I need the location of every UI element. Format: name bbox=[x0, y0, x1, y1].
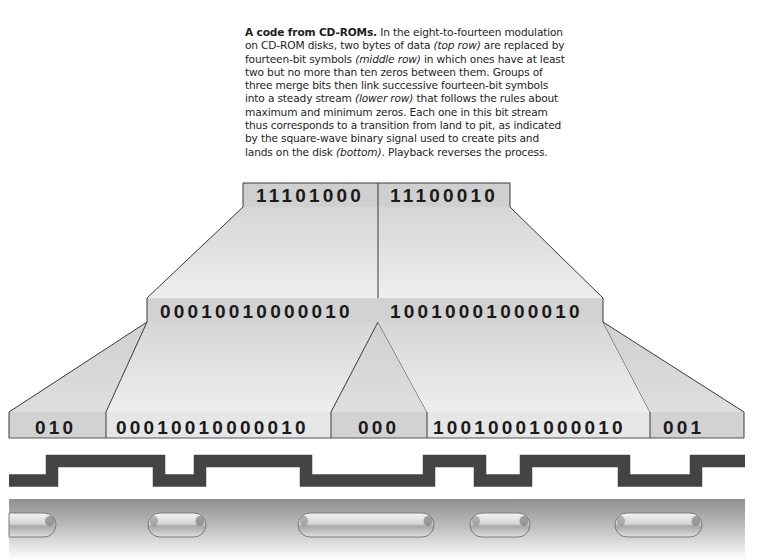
pit bbox=[9, 513, 56, 537]
top-row-byte-2: 11100010 bbox=[390, 185, 498, 206]
square-wave-signal bbox=[9, 461, 745, 481]
top-to-middle-funnel bbox=[147, 207, 603, 298]
lower-row-merge-bits-2: 000 bbox=[358, 417, 399, 438]
lower-row-symbol-2: 10010001000010 bbox=[433, 417, 626, 438]
pit bbox=[470, 513, 530, 537]
pit bbox=[615, 513, 702, 537]
lower-row-merge-bits-3: 001 bbox=[663, 417, 704, 438]
lower-row-merge-bits-1: 010 bbox=[35, 417, 76, 438]
middle-to-lower-funnel bbox=[9, 322, 744, 412]
middle-row-symbol-2: 10010001000010 bbox=[390, 301, 583, 322]
lower-row-symbol-1: 00010010000010 bbox=[116, 417, 309, 438]
efm-diagram: 11101000 11100010 00010010000010 1001000… bbox=[0, 0, 769, 560]
middle-row-symbol-1: 00010010000010 bbox=[160, 301, 353, 322]
top-row-byte-1: 11101000 bbox=[256, 185, 364, 206]
pit bbox=[298, 513, 434, 537]
pit bbox=[148, 513, 206, 537]
